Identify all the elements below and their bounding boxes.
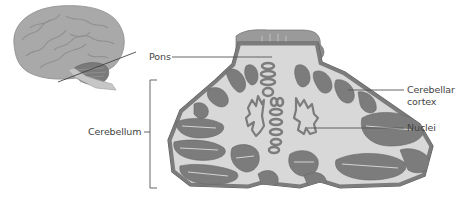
cerebellar-cortex-label-line1: Cerebellar (407, 84, 455, 95)
cerebellum-cross-section (168, 30, 433, 188)
diagram-graphic (0, 0, 472, 208)
pons-label: Pons (149, 51, 171, 62)
nuclei-label: Nuclei (407, 122, 436, 133)
cerebellum-label: Cerebellum (88, 126, 141, 137)
brain-inset-icon (14, 6, 136, 90)
cerebellar-cortex-label-line2: cortex (407, 96, 436, 107)
diagram-canvas: Pons Cerebellar cortex Nuclei Cerebellum (0, 0, 472, 208)
